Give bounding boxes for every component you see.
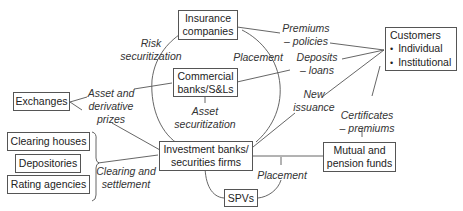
- node-label: securities firms: [171, 156, 241, 169]
- label-line: securitization: [118, 50, 184, 63]
- exchanges-node: Exchanges: [13, 92, 70, 111]
- certificates-premiums-label: Certificates – premiums: [337, 109, 397, 135]
- label-line: securitization: [172, 118, 238, 131]
- new-issuance-label: New issuance: [291, 88, 337, 114]
- label-line: Placement: [256, 169, 308, 182]
- label-line: Clearing and: [96, 165, 156, 178]
- label-line: derivative: [86, 100, 136, 113]
- depositories-node: Depositories: [15, 154, 81, 173]
- mutual-pension-funds-node: Mutual and pension funds: [323, 142, 396, 172]
- customer-type-item: Institutional: [390, 56, 451, 70]
- spv-right-loop: [258, 180, 281, 198]
- prizes-to-investment-line: [112, 123, 160, 150]
- exchanges-upper-line: [70, 97, 87, 102]
- node-label: Mutual and: [334, 144, 386, 157]
- spvs-node: SPVs: [224, 189, 258, 207]
- node-label: pension funds: [327, 157, 392, 170]
- label-line: New: [291, 88, 337, 101]
- commercial-to-asset-line: [134, 83, 172, 89]
- node-label: Rating agencies: [11, 178, 86, 191]
- premiums-policies-label: Premiums – policies: [280, 22, 332, 48]
- node-label: Clearing houses: [11, 135, 87, 148]
- commercial-banks-node: Commercial banks/S&Ls: [173, 68, 238, 97]
- label-line: Deposits: [292, 51, 342, 64]
- label-line: – loans: [292, 64, 342, 77]
- node-label: banks/S&Ls: [177, 83, 233, 96]
- commercial-to-deposits-line: [237, 70, 290, 82]
- clearing-line: [98, 155, 158, 163]
- placement-top-label: Placement: [232, 51, 284, 64]
- exchanges-lower-line: [70, 102, 82, 110]
- node-label: Depositories: [19, 157, 77, 170]
- clearing-houses-node: Clearing houses: [7, 132, 90, 151]
- node-label: companies: [183, 25, 234, 38]
- asset-securitization-label: Asset securitization: [172, 105, 238, 131]
- customers-node: Customers Individual Institutional: [385, 27, 457, 71]
- customers-title: Customers: [390, 29, 441, 42]
- certificates-line: [372, 66, 380, 96]
- placement-arc: [242, 30, 280, 142]
- node-label: Exchanges: [16, 95, 68, 108]
- policies-line: [330, 43, 384, 50]
- rating-agencies-node: Rating agencies: [7, 175, 90, 194]
- clearing-settlement-label: Clearing and settlement: [96, 165, 156, 191]
- label-line: issuance: [291, 101, 337, 114]
- label-line: Risk: [118, 37, 184, 50]
- customer-type-item: Individual: [390, 42, 451, 56]
- node-label: Investment banks/: [163, 143, 248, 156]
- node-label: Insurance: [185, 12, 231, 25]
- label-line: – policies: [280, 35, 332, 48]
- label-line: Asset: [172, 105, 238, 118]
- label-line: Premiums: [280, 22, 332, 35]
- label-line: Placement: [232, 51, 284, 64]
- premiums-line: [237, 27, 280, 33]
- insurance-companies-node: Insurance companies: [178, 10, 238, 40]
- deposits-loans-label: Deposits – loans: [292, 51, 342, 77]
- investment-banks-node: Investment banks/ securities firms: [159, 141, 253, 171]
- asset-derivative-prizes-label: Asset and derivative prizes: [86, 87, 136, 126]
- label-line: Certificates: [337, 109, 397, 122]
- label-line: settlement: [96, 178, 156, 191]
- placement-bottom-label: Placement: [256, 169, 308, 182]
- risk-securitization-label: Risk securitization: [118, 37, 184, 63]
- label-line: prizes: [86, 113, 136, 126]
- node-label: Commercial: [177, 70, 233, 83]
- label-line: – premiums: [337, 122, 397, 135]
- label-line: Asset and: [86, 87, 136, 100]
- node-label: SPVs: [228, 192, 254, 205]
